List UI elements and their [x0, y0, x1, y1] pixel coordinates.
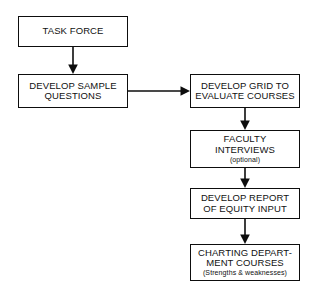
node-faculty-interviews-sublabel: (optional): [230, 156, 260, 164]
edge-develop-report-to-charting: [240, 219, 250, 244]
node-develop-grid: DEVELOP GRID TO EVALUATE COURSES: [190, 74, 300, 108]
flowchart-canvas: TASK FORCE DEVELOP SAMPLE QUESTIONS DEVE…: [0, 0, 317, 284]
node-charting-department-courses-label: CHARTING DEPART- MENT COURSES: [198, 248, 292, 269]
edge-develop-grid-to-faculty: [240, 108, 250, 130]
node-task-force: TASK FORCE: [18, 16, 128, 47]
node-task-force-label: TASK FORCE: [43, 26, 104, 36]
node-faculty-interviews: FACULTY INTERVIEWS (optional): [190, 130, 300, 168]
node-charting-department-courses-sublabel: (Strengths & weaknesses): [203, 269, 287, 277]
node-charting-department-courses: CHARTING DEPART- MENT COURSES (Strengths…: [190, 244, 300, 281]
node-develop-grid-label: DEVELOP GRID TO EVALUATE COURSES: [195, 81, 294, 102]
node-develop-report-label: DEVELOP REPORT OF EQUITY INPUT: [201, 193, 289, 214]
edge-faculty-to-develop-report: [240, 168, 250, 188]
node-develop-sample-questions: DEVELOP SAMPLE QUESTIONS: [18, 74, 128, 108]
edge-task-force-to-develop-sample: [68, 47, 78, 74]
node-faculty-interviews-label: FACULTY INTERVIEWS: [215, 134, 275, 155]
node-develop-sample-questions-label: DEVELOP SAMPLE QUESTIONS: [29, 81, 116, 102]
edge-develop-sample-to-develop-grid: [128, 86, 190, 96]
node-develop-report: DEVELOP REPORT OF EQUITY INPUT: [190, 188, 300, 219]
